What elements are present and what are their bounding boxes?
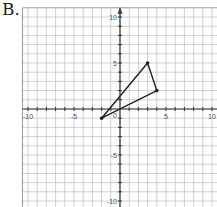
vertex-point: [146, 61, 150, 65]
y-tick-label: 5: [113, 60, 117, 67]
vertex-point: [155, 89, 159, 93]
y-tick-label: 10: [109, 14, 117, 21]
x-tick-label: -5: [71, 113, 77, 120]
vertex-point: [100, 116, 104, 120]
y-tick-label: -5: [111, 152, 117, 159]
x-tick-label: 5: [164, 113, 168, 120]
y-axis-arrow-icon: [118, 8, 123, 14]
x-tick-label: -10: [23, 113, 33, 120]
y-tick-label: -10: [107, 198, 117, 205]
coordinate-plane: -10-5510105-5-100: [0, 0, 217, 207]
origin-label: 0: [113, 112, 117, 119]
axes: [22, 8, 217, 207]
x-tick-label: 10: [208, 113, 216, 120]
